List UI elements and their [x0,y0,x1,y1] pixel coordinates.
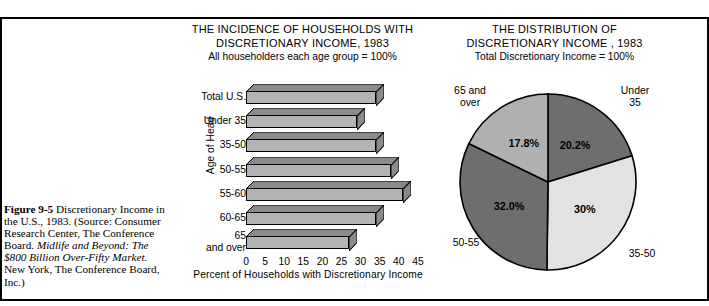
x-axis-tick-label: 35 [371,256,389,267]
x-axis-tick-label: 30 [352,256,370,267]
bar-chart-plot-area: Total U.S.Under 3535-5050-5555-6060-6565… [176,84,428,254]
bar-3d [246,84,384,108]
caption-line-1: Discretionary [56,203,117,215]
bar-chart-subtitle: All householders each age group = 100% [180,50,425,64]
pie-category-label: 35-50 [629,248,656,259]
bar-side-face [376,132,384,154]
bar-front-face [246,188,403,201]
bar-row: Total U.S. [176,84,428,108]
bar-3d [246,157,399,181]
figure-caption: Figure 9-5 Discretionary Income in the U… [4,203,170,288]
bar-side-face [403,181,411,203]
bar-category-label: Under 35 [156,115,246,126]
figure-top-rule [0,17,709,19]
bar-3d [246,181,411,205]
bar-row: Under 35 [176,108,428,132]
pie-chart: 20.2%30%32.0%17.8%Under3535-5050-5565 an… [430,70,680,295]
bar-category-label: Total U.S. [156,91,246,102]
figure-number: Figure 9-5 [4,203,53,215]
pie-category-label: 65 andover [454,85,486,108]
bar-side-face [376,205,384,227]
pie-category-label: Under35 [621,85,650,108]
pie-chart-title-line-2: DISCRETIONARY INCOME , 1983 [437,37,672,51]
pie-slice-value-label: 32.0% [494,200,525,212]
bar-category-label: 50-55 [156,164,246,175]
bar-row: 35-50 [176,132,428,156]
caption-line-5-plain: Board. [4,239,37,251]
x-axis-tick-label: 5 [256,256,274,267]
bar-front-face [246,212,376,225]
x-axis-tick-label: 25 [333,256,351,267]
bar-3d [246,229,357,253]
bar-3d [246,108,365,132]
figure-left-rule [0,17,2,301]
bar-category-label: 35-50 [156,139,246,150]
bar-chart-x-axis-label: Percent of Households with Discretionary… [188,269,428,280]
caption-book-title-part-3: Market. [112,251,147,263]
caption-book-title-part-1: Midlife and Beyond: [37,239,129,251]
bar-row: 60-65 [176,205,428,229]
pie-slice-value-label: 20.2% [560,139,591,151]
bar-front-face [246,115,357,128]
bar-side-face [391,157,399,179]
bar-3d [246,205,384,229]
bar-chart-title-line-2: DISCRETIONARY INCOME, 1983 [180,37,425,51]
bar-side-face [349,229,357,251]
bar-category-label: 60-65 [156,212,246,223]
x-axis-tick-label: 10 [275,256,293,267]
figure-9-5: Figure 9-5 Discretionary Income in the U… [0,0,709,306]
bar-3d [246,132,384,156]
x-axis-tick-label: 45 [409,256,427,267]
bar-row: 65 and over [176,229,428,253]
bar-front-face [246,139,376,152]
pie-chart-svg: 20.2%30%32.0%17.8%Under3535-5050-5565 an… [430,70,680,295]
bar-category-label: 65 and over [156,230,246,253]
pie-category-label: 50-55 [453,237,480,248]
pie-slice-value-label: 17.8% [508,137,539,149]
x-axis-tick-label: 40 [390,256,408,267]
bar-chart-x-axis: 051015202530354045 [246,256,428,270]
pie-chart-subtitle: Total Discretionary Income = 100% [437,50,672,64]
x-axis-tick-label: 15 [294,256,312,267]
x-axis-tick-label: 0 [237,256,255,267]
x-axis-tick-label: 20 [313,256,331,267]
bar-chart-title: THE INCIDENCE OF HOUSEHOLDS WITH DISCRET… [180,23,425,64]
bar-front-face [246,164,391,177]
caption-line-4: Center, The Conference [48,227,155,239]
bar-chart: Age of Head Total U.S.Under 3535-5050-55… [176,80,428,295]
bar-row: 50-55 [176,157,428,181]
bar-row: 55-60 [176,181,428,205]
bar-chart-title-line-1: THE INCIDENCE OF HOUSEHOLDS WITH [180,23,425,37]
bar-front-face [246,236,349,249]
pie-slice-value-label: 30% [574,203,596,215]
pie-chart-title: THE DISTRIBUTION OF DISCRETIONARY INCOME… [437,23,672,64]
caption-line-7-plain: New York, The [4,263,72,275]
bar-side-face [376,84,384,106]
bar-category-label: 55-60 [156,188,246,199]
figure-bottom-rule [0,299,709,301]
bar-side-face [357,108,365,130]
pie-chart-title-line-1: THE DISTRIBUTION OF [437,23,672,37]
bar-front-face [246,91,376,104]
